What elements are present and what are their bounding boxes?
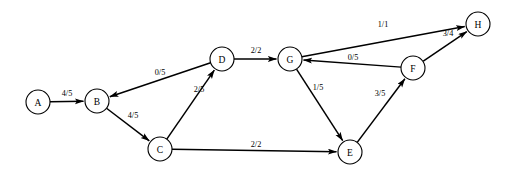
node-label-b: B	[94, 97, 100, 107]
graph-canvas: 4/50/54/52/52/21/52/23/50/51/13/4 ABCDEF…	[0, 0, 509, 185]
edge-label-a-b: 4/5	[62, 89, 72, 98]
node-a[interactable]: A	[26, 90, 50, 114]
edge-label-c-d: 2/5	[194, 85, 204, 94]
node-c[interactable]: C	[148, 137, 172, 161]
node-label-f: F	[410, 64, 415, 74]
flow-network-diagram: 4/50/54/52/52/21/52/23/50/51/13/4 ABCDEF…	[0, 0, 509, 185]
node-label-d: D	[219, 55, 226, 65]
node-d[interactable]: D	[210, 47, 234, 71]
edge-label-f-h: 3/4	[443, 29, 453, 38]
edge-g-to-e	[297, 69, 343, 141]
edge-label-d-g: 2/2	[251, 46, 261, 55]
node-e[interactable]: E	[338, 140, 362, 164]
node-label-e: E	[347, 148, 353, 158]
node-label-h: H	[475, 20, 482, 30]
edge-a-to-b	[50, 101, 84, 102]
node-b[interactable]: B	[85, 89, 109, 113]
edge-g-to-h	[302, 26, 465, 56]
edge-label-g-e: 1/5	[313, 83, 323, 92]
node-label-g: G	[287, 55, 294, 65]
node-f[interactable]: F	[401, 56, 425, 80]
edge-label-c-e: 2/2	[251, 140, 261, 149]
node-label-c: C	[157, 145, 163, 155]
edge-label-g-h: 1/1	[378, 20, 388, 29]
edge-label-e-f: 3/5	[375, 89, 385, 98]
edge-label-f-g: 0/5	[348, 53, 358, 62]
edge-label-d-b: 0/5	[155, 68, 165, 77]
edge-label-b-c: 4/5	[128, 111, 138, 120]
node-label-a: A	[35, 98, 42, 108]
node-h[interactable]: H	[466, 12, 490, 36]
node-g[interactable]: G	[278, 47, 302, 71]
edge-c-to-e	[172, 149, 337, 152]
edge-c-to-d	[167, 70, 215, 139]
